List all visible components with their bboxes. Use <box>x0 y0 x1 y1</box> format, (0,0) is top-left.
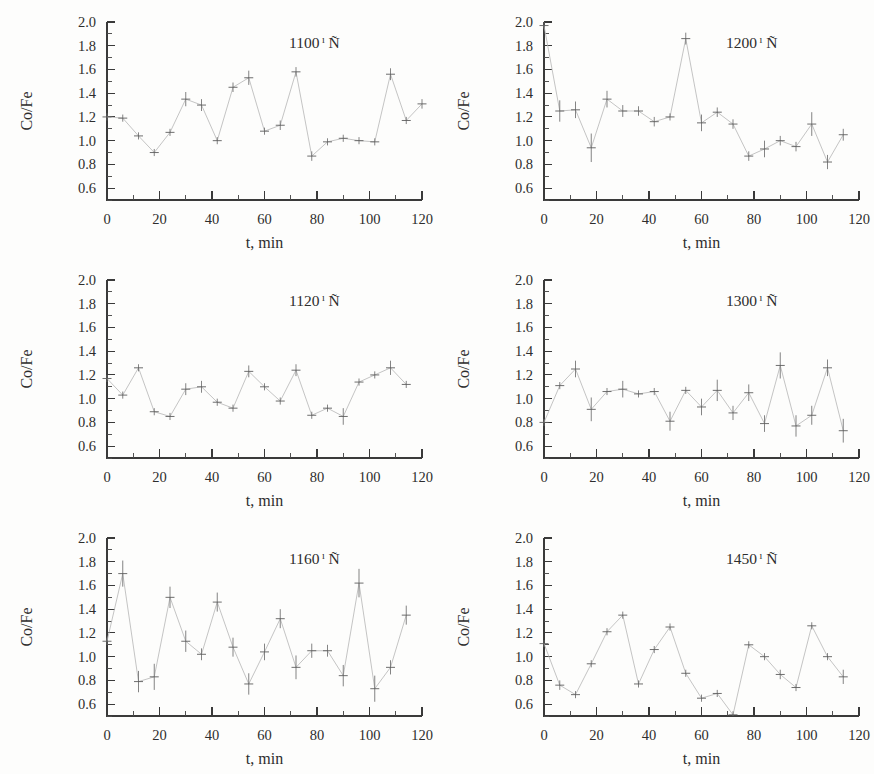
y-tick-label: 1.8 <box>78 296 96 312</box>
temp-unit-base: Ñ <box>762 34 777 51</box>
y-tick-label: 2.0 <box>515 14 533 30</box>
y-axis-title: Co/Fe <box>455 91 472 130</box>
x-tick-label: 100 <box>796 469 818 485</box>
x-axis-title: t, min <box>246 750 283 767</box>
x-axis-title: t, min <box>683 234 720 251</box>
x-tick-label: 100 <box>359 469 381 485</box>
axis-spines <box>107 22 422 200</box>
x-tick-label: 20 <box>152 469 167 485</box>
x-tick-label: 60 <box>694 211 709 227</box>
data-points-group <box>540 352 848 442</box>
y-tick-label: 1.0 <box>78 649 96 665</box>
x-tick-label: 120 <box>411 211 433 227</box>
y-tick-label: 1.2 <box>515 367 533 383</box>
y-tick-label: 1.0 <box>515 133 533 149</box>
y-tick-label: 0.6 <box>78 696 96 712</box>
x-tick-label: 0 <box>540 469 547 485</box>
y-tick-label: 0.6 <box>78 180 96 196</box>
x-tick-label: 120 <box>848 469 870 485</box>
x-tick-label: 80 <box>747 469 762 485</box>
chart-panel-1300: 0.60.81.01.21.41.61.82.0020406080100120t… <box>437 258 874 516</box>
temp-unit-base: Ñ <box>325 550 340 567</box>
x-tick-label: 20 <box>589 469 604 485</box>
y-tick-label: 1.4 <box>78 85 97 101</box>
chart-panel-1100: 0.60.81.01.21.41.61.82.0020406080100120t… <box>0 0 437 258</box>
y-tick-label: 1.2 <box>78 367 96 383</box>
y-tick-label: 1.8 <box>78 38 96 54</box>
y-tick-label: 1.6 <box>515 319 533 335</box>
y-tick-label: 2.0 <box>515 530 533 546</box>
y-tick-label: 1.0 <box>78 133 96 149</box>
x-axis-title: t, min <box>683 750 720 767</box>
x-tick-label: 20 <box>152 727 167 743</box>
x-tick-label: 120 <box>411 727 433 743</box>
y-tick-label: 1.2 <box>515 109 533 125</box>
x-tick-label: 100 <box>359 211 381 227</box>
y-tick-label: 1.6 <box>515 577 533 593</box>
x-tick-label: 0 <box>103 211 110 227</box>
temp-unit-base: Ñ <box>325 292 340 309</box>
x-tick-label: 60 <box>694 727 709 743</box>
panel-temperature-label: 1200 ı Ñ <box>726 34 777 51</box>
x-tick-label: 40 <box>642 211 657 227</box>
y-tick-label: 2.0 <box>515 272 533 288</box>
y-tick-label: 1.0 <box>78 391 96 407</box>
y-tick-label: 2.0 <box>78 272 96 288</box>
y-axis-title: Co/Fe <box>18 607 35 646</box>
x-tick-label: 120 <box>411 469 433 485</box>
y-tick-label: 0.6 <box>515 438 533 454</box>
y-axis-title: Co/Fe <box>455 349 472 388</box>
y-axis-title: Co/Fe <box>18 91 35 130</box>
x-tick-label: 80 <box>747 211 762 227</box>
temp-unit-base: Ñ <box>762 292 777 309</box>
chart-panel-1450: 0.60.81.01.21.41.61.82.0020406080100120t… <box>437 516 874 774</box>
x-tick-label: 60 <box>257 211 272 227</box>
series-line <box>544 615 843 715</box>
data-points-group <box>103 361 411 425</box>
y-tick-label: 1.6 <box>78 319 96 335</box>
x-tick-label: 40 <box>205 469 220 485</box>
panel-temperature-label: 1300 ı Ñ <box>726 292 777 309</box>
figure-grid: 0.60.81.01.21.41.61.82.0020406080100120t… <box>0 0 874 774</box>
temp-unit-base: Ñ <box>762 550 777 567</box>
y-tick-label: 1.0 <box>515 391 533 407</box>
x-tick-label: 100 <box>359 727 381 743</box>
x-tick-label: 120 <box>848 727 870 743</box>
panel-temperature-label: 1160 ı Ñ <box>289 550 340 567</box>
x-tick-label: 0 <box>540 211 547 227</box>
y-tick-label: 1.4 <box>515 343 534 359</box>
panel-temperature-label: 1120 ı Ñ <box>289 292 340 309</box>
x-tick-label: 60 <box>257 727 272 743</box>
y-tick-label: 0.8 <box>515 672 533 688</box>
x-tick-label: 120 <box>848 211 870 227</box>
y-tick-label: 1.8 <box>515 554 533 570</box>
x-tick-label: 60 <box>257 469 272 485</box>
y-axis-title: Co/Fe <box>18 349 35 388</box>
data-points-group <box>540 22 848 169</box>
axis-spines <box>544 22 859 200</box>
x-tick-label: 40 <box>642 727 657 743</box>
chart-panel-1120: 0.60.81.01.21.41.61.82.0020406080100120t… <box>0 258 437 516</box>
axis-spines <box>107 280 422 458</box>
x-tick-label: 80 <box>747 727 762 743</box>
x-tick-label: 60 <box>694 469 709 485</box>
x-tick-label: 0 <box>103 727 110 743</box>
x-tick-label: 40 <box>205 211 220 227</box>
y-tick-label: 1.8 <box>515 296 533 312</box>
temp-unit-base: Ñ <box>325 34 340 51</box>
x-axis-title: t, min <box>683 492 720 509</box>
y-tick-label: 2.0 <box>78 530 96 546</box>
x-tick-label: 20 <box>152 211 167 227</box>
x-tick-label: 100 <box>796 727 818 743</box>
series-line <box>107 368 406 417</box>
y-tick-label: 0.8 <box>78 156 96 172</box>
y-tick-label: 1.4 <box>78 343 97 359</box>
series-line <box>544 365 843 430</box>
x-axis-title: t, min <box>246 492 283 509</box>
y-axis-title: Co/Fe <box>455 607 472 646</box>
y-tick-label: 0.8 <box>78 414 96 430</box>
x-tick-label: 20 <box>589 727 604 743</box>
x-tick-label: 0 <box>540 727 547 743</box>
chart-panel-1200: 0.60.81.01.21.41.61.82.0020406080100120t… <box>437 0 874 258</box>
y-tick-label: 0.6 <box>515 180 533 196</box>
